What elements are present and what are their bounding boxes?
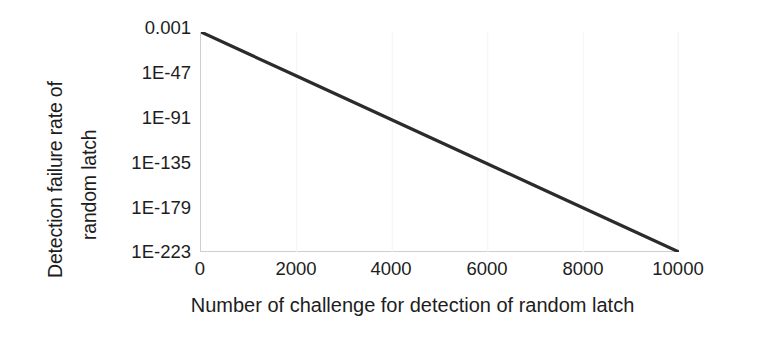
y-tick-label: 1E-179 [86,199,191,218]
x-axis-tick-labels: 0200040006000800010000 [0,258,771,286]
x-tick-label: 10000 [652,258,703,280]
x-tick-label: 2000 [275,258,316,280]
y-axis-tick-labels: 0.0011E-471E-911E-1351E-1791E-223 [86,0,191,285]
y-axis-title-line-1: Detection failure rate of [44,81,67,278]
x-axis-title: Number of challenge for detection of ran… [0,294,771,317]
y-tick-label: 0.001 [86,19,191,38]
plot-canvas [201,32,679,252]
x-axis-title-text: Number of challenge for detection of ran… [137,294,635,316]
y-tick-label: 1E-91 [86,109,191,128]
plot-area [200,32,678,252]
x-tick-label: 4000 [370,258,411,280]
x-tick-label: 8000 [562,258,603,280]
y-tick-label: 1E-135 [86,154,191,173]
x-tick-label: 6000 [466,258,507,280]
x-tick-label: 0 [195,258,205,280]
y-axis-title: Detection failure rate of random latch [0,0,96,285]
chart-figure: Detection failure rate of random latch 0… [0,0,771,351]
y-tick-label: 1E-47 [86,64,191,83]
data-series-line [201,32,679,252]
